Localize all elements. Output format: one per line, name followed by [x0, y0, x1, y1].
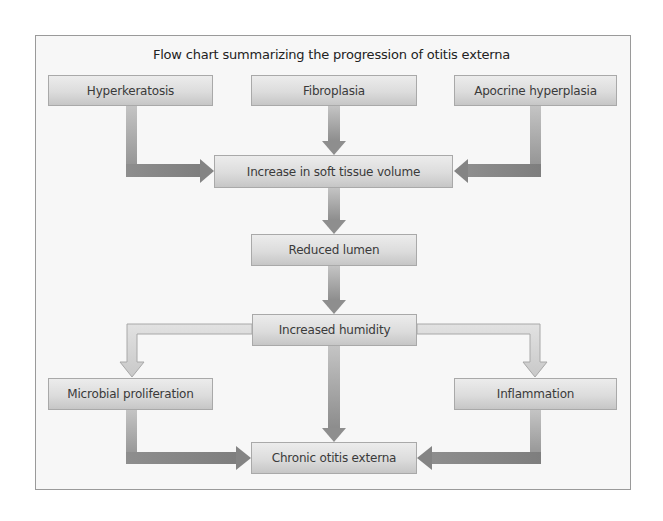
node-increase-soft-tissue-volume: Increase in soft tissue volume: [214, 155, 453, 188]
node-chronic-otitis-externa: Chronic otitis externa: [251, 442, 417, 474]
node-reduced-lumen: Reduced lumen: [251, 234, 417, 266]
node-inflammation: Inflammation: [454, 378, 617, 410]
node-increased-humidity: Increased humidity: [252, 314, 417, 346]
arrow-inflammation-to-chronic: [417, 410, 541, 470]
node-hyperkeratosis: Hyperkeratosis: [48, 75, 213, 106]
arrow-humidity-to-inflammation: [417, 324, 547, 377]
arrow-apocrine-to-soft-tissue: [454, 106, 541, 183]
arrow-hyperkeratosis-to-soft-tissue: [126, 106, 214, 183]
arrow-humidity-to-microbial: [120, 324, 252, 377]
arrow-fibroplasia-to-soft-tissue: [322, 106, 346, 155]
arrow-microbial-to-chronic: [126, 410, 251, 470]
arrow-soft-tissue-to-reduced-lumen: [322, 188, 346, 234]
node-microbial-proliferation: Microbial proliferation: [48, 378, 213, 410]
arrow-humidity-to-chronic: [322, 346, 346, 442]
node-fibroplasia: Fibroplasia: [251, 75, 417, 106]
node-apocrine-hyperplasia: Apocrine hyperplasia: [454, 75, 617, 106]
arrow-reduced-lumen-to-humidity: [322, 266, 346, 314]
